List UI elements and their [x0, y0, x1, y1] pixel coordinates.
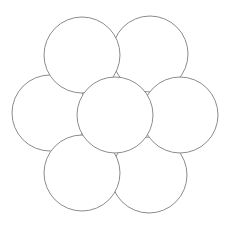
- circle-diagram: [0, 0, 231, 226]
- circle-center: [77, 77, 153, 153]
